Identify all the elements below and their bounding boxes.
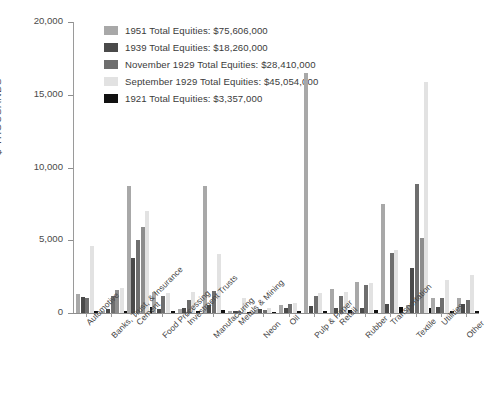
bar-november1929: [364, 285, 368, 313]
x-tick-mark: [466, 313, 467, 317]
x-tick-mark: [263, 313, 264, 317]
bar-1939: [436, 307, 440, 313]
bar-group: [431, 22, 454, 313]
bar-1921: [297, 311, 301, 313]
x-axis-label: Other: [464, 318, 486, 340]
bar-group: [228, 22, 251, 313]
bar-september1929: [470, 275, 474, 313]
bar-1939: [360, 308, 364, 313]
y-tick-mark: [68, 313, 73, 314]
x-tick-mark: [213, 313, 214, 317]
bar-1939: [81, 297, 85, 313]
y-tick-label: 5,000: [39, 233, 63, 244]
x-axis-label: Rubber: [363, 313, 390, 340]
bar-group: [254, 22, 277, 313]
bar-group: [406, 22, 434, 313]
bar-group: [127, 22, 155, 313]
x-tick-mark: [111, 313, 112, 317]
bar-1921: [272, 312, 276, 313]
bar-november1929: [288, 304, 292, 313]
bar-september1929: [166, 293, 170, 313]
bar-group: [457, 22, 480, 313]
bar-group: [304, 22, 327, 313]
bar-1951: [304, 73, 308, 313]
x-tick-mark: [314, 313, 315, 317]
bar-1951: [330, 289, 334, 313]
x-axis-label: Neon: [261, 319, 282, 340]
bar-november1929: [390, 253, 394, 313]
bar-september1929: [394, 250, 398, 313]
bar-1921: [323, 311, 327, 313]
x-tick-mark: [365, 313, 366, 317]
y-tick-label: 10,000: [34, 161, 63, 172]
bar-1951: [381, 204, 385, 313]
bar-september1929: [90, 246, 94, 313]
bar-1939: [385, 304, 389, 313]
x-axis-label: Textile: [414, 316, 438, 340]
bar-1921: [374, 310, 378, 313]
bar-1921: [221, 310, 225, 313]
bar-november1929: [440, 298, 444, 313]
bar-group: [76, 22, 99, 313]
bar-1939: [284, 308, 288, 313]
bar-1939: [309, 306, 313, 313]
bar-september1929: [293, 303, 297, 313]
bar-group: [381, 22, 404, 313]
y-tick-label: 20,000: [34, 15, 63, 26]
x-tick-mark: [416, 313, 417, 317]
bar-1951: [431, 298, 435, 313]
bar-september1929: [424, 82, 428, 313]
bar-group: [101, 22, 129, 313]
bar-1921: [475, 311, 479, 313]
bar-november1929: [85, 298, 89, 313]
bar-november1929: [314, 296, 318, 313]
bar-chart: 1951 Total Equities: $75,606,0001939 Tot…: [0, 0, 493, 418]
x-tick-mark: [162, 313, 163, 317]
bar-september1929: [120, 288, 124, 313]
y-tick-label: 15,000: [34, 88, 63, 99]
bar-september1929: [318, 293, 322, 313]
y-axis-title: $ THOUSANDS: [0, 78, 3, 155]
plot-area: [73, 22, 479, 313]
bar-group: [203, 22, 226, 313]
bar-november1929: [466, 300, 470, 313]
y-tick-label: 0: [58, 306, 63, 317]
bar-1939: [131, 258, 135, 313]
bar-september1929: [267, 308, 271, 313]
bar-september1929: [445, 280, 449, 313]
bar-1921: [171, 311, 175, 313]
bar-group: [355, 22, 378, 313]
bar-1951: [279, 305, 283, 313]
bar-november1929: [161, 296, 165, 313]
bar-group: [279, 22, 302, 313]
bar-group: [330, 22, 353, 313]
bar-september1929: [369, 283, 373, 313]
bar-1951: [127, 186, 131, 313]
bar-1951: [76, 294, 80, 313]
